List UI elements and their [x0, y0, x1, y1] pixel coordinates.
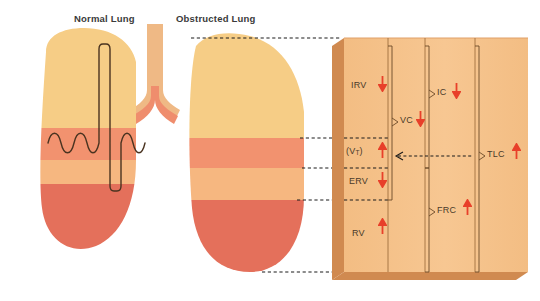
lung-diagram-svg	[0, 0, 540, 301]
volumes-panel	[332, 38, 528, 280]
obstructed-lung-body	[180, 20, 320, 290]
label-vc: VC	[400, 115, 413, 125]
label-tlc: TLC	[487, 149, 505, 159]
header-normal-lung: Normal Lung	[74, 13, 135, 24]
label-vt: (VT)	[346, 146, 363, 156]
panel-left-edge	[332, 38, 344, 280]
arrow-vt-up	[378, 142, 387, 158]
trachea-icon	[130, 24, 180, 118]
arrow-frc-up	[463, 199, 472, 215]
label-vt-text: (VT)	[346, 146, 363, 156]
arrow-erv-down	[378, 172, 387, 188]
header-obstructed-lung: Obstructed Lung	[176, 13, 256, 24]
label-vt-subscript: T	[355, 149, 359, 156]
label-rv: RV	[352, 228, 365, 238]
arrow-ic-down	[452, 83, 461, 99]
diagram-canvas: Normal Lung Obstructed Lung IRV (VT) ERV…	[0, 0, 540, 301]
label-erv: ERV	[349, 176, 368, 186]
label-irv: IRV	[351, 80, 366, 90]
arrow-vc-down	[416, 111, 425, 127]
panel-bottom-edge	[332, 272, 528, 280]
label-ic: IC	[437, 87, 446, 97]
arrow-irv-down	[378, 76, 387, 92]
arrow-rv-up	[378, 218, 387, 234]
label-frc: FRC	[437, 205, 456, 215]
trachea-group	[130, 24, 180, 124]
normal-lung-body	[30, 20, 150, 274]
arrow-tlc-up	[512, 143, 521, 159]
